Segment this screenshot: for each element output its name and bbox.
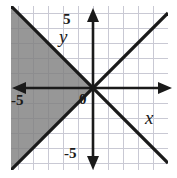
inequality-graph-figure: 5 -5 -5 0 y x bbox=[0, 0, 177, 178]
y-axis-tick-label-5: 5 bbox=[63, 12, 71, 27]
origin-label: 0 bbox=[79, 92, 87, 107]
x-axis-tick-label-negative-5: -5 bbox=[11, 93, 24, 108]
y-axis-name-label: y bbox=[59, 27, 67, 46]
y-axis-tick-label-negative-5: -5 bbox=[64, 146, 77, 161]
coordinate-axes bbox=[0, 0, 177, 178]
x-axis-name-label: x bbox=[145, 108, 153, 127]
